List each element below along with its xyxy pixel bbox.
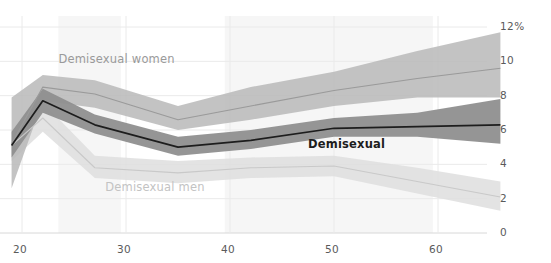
line-chart-plot (0, 0, 551, 263)
annotation-demisexual: Demisexual (308, 137, 385, 151)
y-tick-label-10: 10 (500, 54, 514, 66)
annotation-demisexual-women: Demisexual women (58, 52, 174, 66)
annotation-demisexual-men: Demisexual men (105, 180, 205, 194)
y-tick-label-2: 2 (500, 192, 507, 204)
y-tick-label-0: 0 (500, 226, 507, 238)
x-tick-label-20: 20 (13, 243, 27, 255)
x-tick-label-60: 60 (429, 243, 443, 255)
y-tick-label-6: 6 (500, 123, 507, 135)
x-tick-label-40: 40 (221, 243, 235, 255)
y-tick-label-4: 4 (500, 157, 507, 169)
x-tick-label-50: 50 (325, 243, 339, 255)
y-tick-label-12: 12% (500, 20, 525, 32)
chart-container: 024681012% 2030405060 Demisexual womenDe… (0, 0, 551, 263)
y-tick-label-8: 8 (500, 89, 507, 101)
x-tick-label-30: 30 (117, 243, 131, 255)
